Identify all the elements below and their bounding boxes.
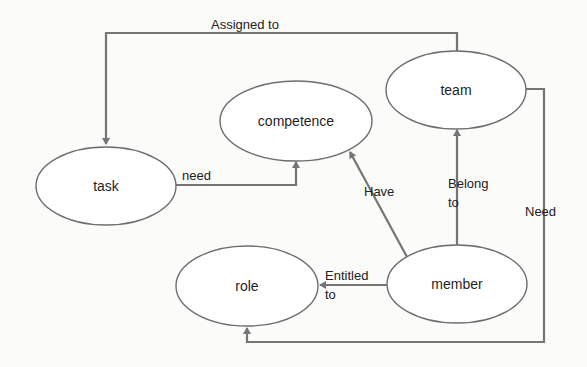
label-have: Have [364,184,394,199]
label-belong: Belong [448,176,488,191]
label-need-team: Need [525,204,556,219]
node-team: team [386,51,526,129]
relationship-diagram: task competence team role member Assigne… [0,0,587,367]
label-entitled-to: to [325,287,336,302]
node-team-label: team [440,82,471,98]
node-member-label: member [431,276,483,292]
label-assigned-to: Assigned to [211,17,279,32]
node-task: task [36,147,176,225]
label-entitled: Entitled [325,268,368,283]
label-belong-to: to [448,195,459,210]
node-role: role [176,246,318,326]
node-role-label: role [235,278,259,294]
label-need-task: need [182,168,211,183]
node-competence: competence [220,81,372,161]
edge-have [350,152,407,257]
node-member: member [387,245,527,323]
node-competence-label: competence [258,113,334,129]
node-task-label: task [93,178,120,194]
